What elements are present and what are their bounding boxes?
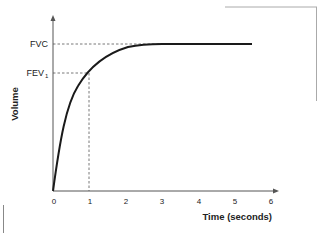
x-tick-3: 3 [160,197,165,206]
fev1-label: FEV [26,68,44,78]
fvc-label: FVC [30,39,49,49]
x-tick-4: 4 [197,197,202,206]
x-axis-title: Time (seconds) [202,211,272,222]
x-tick-6: 6 [269,197,274,206]
volume-curve [53,44,252,191]
x-tick-5: 5 [233,197,238,206]
volume-time-chart: FVC FEV 1 Volume 0 1 2 3 4 5 6 Time (sec… [0,0,324,233]
x-tick-1: 1 [88,197,93,206]
x-tick-2: 2 [124,197,129,206]
fev1-subscript: 1 [45,73,49,79]
y-axis-title: Volume [9,87,20,121]
x-tick-0: 0 [52,197,57,206]
x-axis-arrow-icon [273,189,279,194]
y-axis-arrow-icon [51,15,56,21]
